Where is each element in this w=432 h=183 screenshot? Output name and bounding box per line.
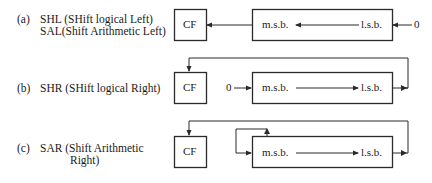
lsb-label-a: l.s.b. — [361, 18, 382, 30]
marker-b: (b) — [17, 82, 30, 95]
label-a-line2: SAL(Shift Arithmetic Left) — [40, 25, 166, 38]
lsb-label-c: l.s.b. — [361, 146, 382, 158]
cf-label-a: CF — [183, 18, 196, 30]
fill-input-b: 0 — [226, 81, 232, 93]
msb-label-a: m.s.b. — [262, 18, 289, 30]
marker-a: (a) — [17, 13, 30, 26]
cf-label-c: CF — [183, 145, 196, 157]
lsb-label-b: l.s.b. — [361, 81, 382, 93]
msb-label-c: m.s.b. — [262, 146, 289, 158]
label-b-line1: SHR (SHift logical Right) — [40, 82, 160, 95]
marker-c: (c) — [17, 142, 30, 155]
fill-input-a: 0 — [414, 18, 420, 30]
msb-label-b: m.s.b. — [262, 81, 289, 93]
label-c-line2: Right) — [70, 154, 99, 167]
cf-label-b: CF — [183, 81, 196, 93]
